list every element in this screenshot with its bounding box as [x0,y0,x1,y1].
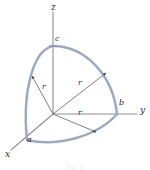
arc-c-to-b [53,46,117,114]
point-label-b: b [119,99,124,107]
arc-a-to-b [27,114,117,142]
x-axis-line [11,114,53,150]
axis-label-x: x [5,150,10,159]
point-label-c: c [55,35,59,43]
figure-container: z y x c b a r r r Fig. 1 [0,0,150,170]
radius-label-lower-right: r [78,109,82,117]
radius-line-lower-right [53,114,96,132]
radius-label-upper-right: r [78,79,82,87]
axis-label-z: z [51,3,56,12]
axis-label-y: y [140,106,145,115]
figure-caption: Fig. 1 [0,164,150,170]
octant-diagram-svg [0,0,150,170]
octant-surface-group [26,46,117,142]
radius-label-left: r [42,83,46,91]
point-label-a: a [27,136,32,144]
